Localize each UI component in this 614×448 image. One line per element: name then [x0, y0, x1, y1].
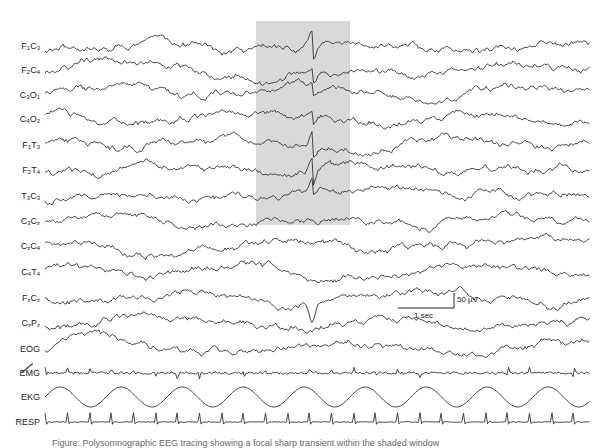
- channel-label-czc4: CzC4: [0, 241, 40, 253]
- channel-label-c4o2: C4O2: [0, 114, 40, 126]
- trace-czc4: [45, 233, 590, 260]
- channel-label-t3c3: T3C3: [0, 191, 40, 203]
- trace-eog: [45, 330, 590, 358]
- channel-label-ekg: EKG: [0, 392, 40, 402]
- channel-label-f1c3: F1C3: [0, 41, 40, 53]
- trace-c4t4: [45, 261, 590, 283]
- trace-emg: [45, 367, 590, 379]
- channel-label-f1t3: F1T3: [0, 140, 40, 152]
- channel-label-c3cz: C3Cz: [0, 216, 40, 228]
- channel-label-c4t4: C4T4: [0, 267, 40, 279]
- channel-label-fzcz: FzCz: [0, 293, 40, 305]
- channel-label-resp: RESP: [0, 417, 40, 427]
- trace-czpz: [45, 312, 590, 333]
- channel-label-c3o1: C3O1: [0, 90, 40, 102]
- amplitude-scale-label: 50 µV: [457, 295, 478, 304]
- highlight-region: [256, 21, 350, 225]
- trace-ekg: [45, 387, 590, 407]
- scale-bar: [398, 293, 454, 308]
- trace-resp: [45, 413, 590, 425]
- figure-caption: Figure: Polysomnographic EEG tracing sho…: [52, 438, 439, 448]
- channel-label-emg: EMG: [0, 368, 40, 378]
- channel-label-f2t4: F2T4: [0, 165, 40, 177]
- channel-label-eog: EOG: [0, 344, 40, 354]
- channel-label-f2c4: F2C4: [0, 65, 40, 77]
- time-scale-label: 1 sec: [414, 311, 433, 320]
- channel-label-czpz: CzPz: [0, 318, 40, 330]
